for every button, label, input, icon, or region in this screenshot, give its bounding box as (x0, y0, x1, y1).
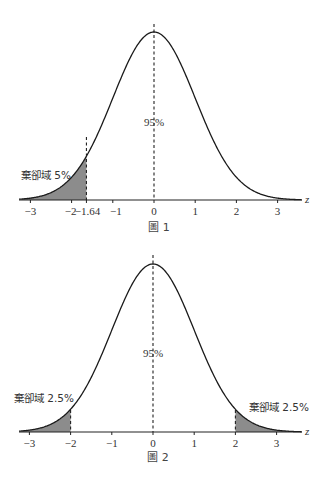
z-axis-label: z (304, 425, 310, 437)
rejection-region-label: 棄卻域 5% (21, 169, 71, 181)
tick-label: 2 (234, 205, 240, 217)
center-area-label: 95% (143, 347, 163, 359)
figure-caption: 圖 2 (147, 451, 169, 464)
tick-label: 1 (191, 437, 197, 449)
tick-label: 0 (150, 437, 156, 449)
rejection-region-label-left: 棄卻域 2.5% (14, 392, 74, 404)
x-ticks: −3−2−10123 (24, 432, 280, 449)
tick-label: 3 (274, 437, 280, 449)
rejection-region-left (21, 409, 70, 432)
tick-label: 2 (233, 437, 239, 449)
figure-canvas: −3−2−1.64−10123 z 95% 棄卻域 5% 圖 1 −3−2−10… (0, 0, 326, 484)
tick-label: −1 (110, 205, 122, 217)
tick-label: −3 (25, 205, 37, 217)
rejection-region-label-right: 棄卻域 2.5% (249, 401, 309, 413)
tick-label: −1.64 (75, 205, 101, 217)
tick-label: 1 (192, 205, 198, 217)
figure-caption: 圖 1 (148, 221, 170, 234)
tick-label: 0 (151, 205, 157, 217)
tick-label: 3 (275, 205, 281, 217)
tick-label: −3 (24, 437, 36, 449)
z-axis-label: z (304, 193, 310, 205)
figure-2: −3−2−10123 z 95% 棄卻域 2.5% 棄卻域 2.5% 圖 2 (14, 255, 310, 464)
center-area-label: 95% (144, 116, 164, 128)
tick-label: −1 (106, 437, 118, 449)
figure-1: −3−2−1.64−10123 z 95% 棄卻域 5% 圖 1 (19, 24, 310, 234)
x-ticks: −3−2−1.64−10123 (25, 200, 281, 217)
tick-label: −2 (65, 437, 77, 449)
